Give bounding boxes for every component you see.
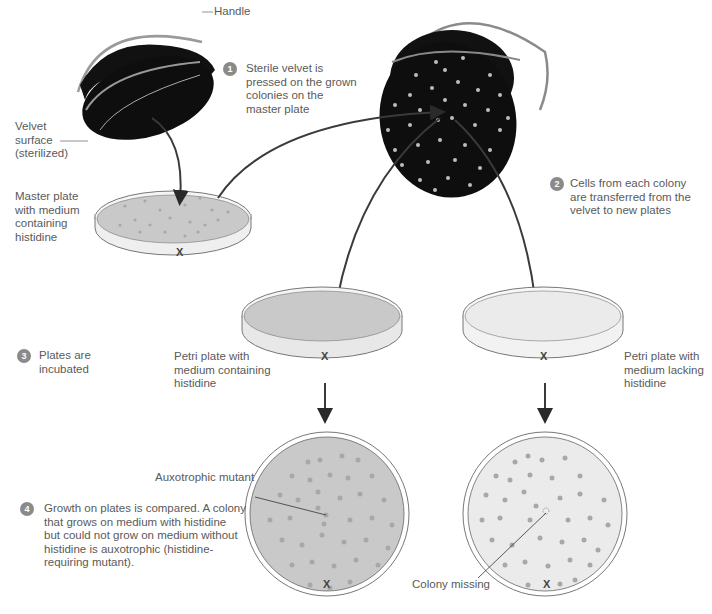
incubated-with-histidine-x-mark: X	[323, 578, 330, 590]
plate-with-histidine	[242, 287, 402, 358]
plate-lacking-histidine-label: Petri plate with medium lacking histidin…	[624, 350, 704, 391]
auxotrophic-mutant-label: Auxotrophic mutant	[155, 471, 254, 485]
step-2-text: Cells from each colony are transferred f…	[570, 177, 691, 218]
step-1-text: Sterile velvet is pressed on the grown c…	[246, 62, 357, 116]
velvet-pad-tilted	[72, 36, 225, 155]
handle-label: Handle	[214, 5, 250, 19]
master-plate-label: Master plate with medium containing hist…	[15, 190, 80, 244]
step-badge-1: 1	[223, 62, 237, 76]
incubated-lacking-histidine-x-mark: X	[543, 578, 550, 590]
colony-missing-label: Colony missing	[412, 578, 490, 592]
master-plate	[95, 191, 251, 255]
plate-with-histidine-x-mark: X	[321, 350, 328, 362]
step-badge-4: 4	[20, 502, 34, 516]
incubated-plate-with-histidine	[245, 432, 409, 596]
step-badge-2: 2	[550, 177, 564, 191]
plate-lacking-histidine	[463, 287, 623, 358]
plate-with-histidine-label: Petri plate with medium containing histi…	[174, 350, 271, 391]
velvet-surface-label: Velvet surface (sterilized)	[15, 120, 68, 161]
master-plate-x-mark: X	[176, 246, 183, 258]
plate-lacking-histidine-x-mark: X	[540, 350, 547, 362]
step-3-text: Plates are incubated	[39, 349, 91, 376]
step-badge-3: 3	[17, 349, 31, 363]
step-4-text: Growth on plates is compared. A colony t…	[44, 502, 246, 570]
